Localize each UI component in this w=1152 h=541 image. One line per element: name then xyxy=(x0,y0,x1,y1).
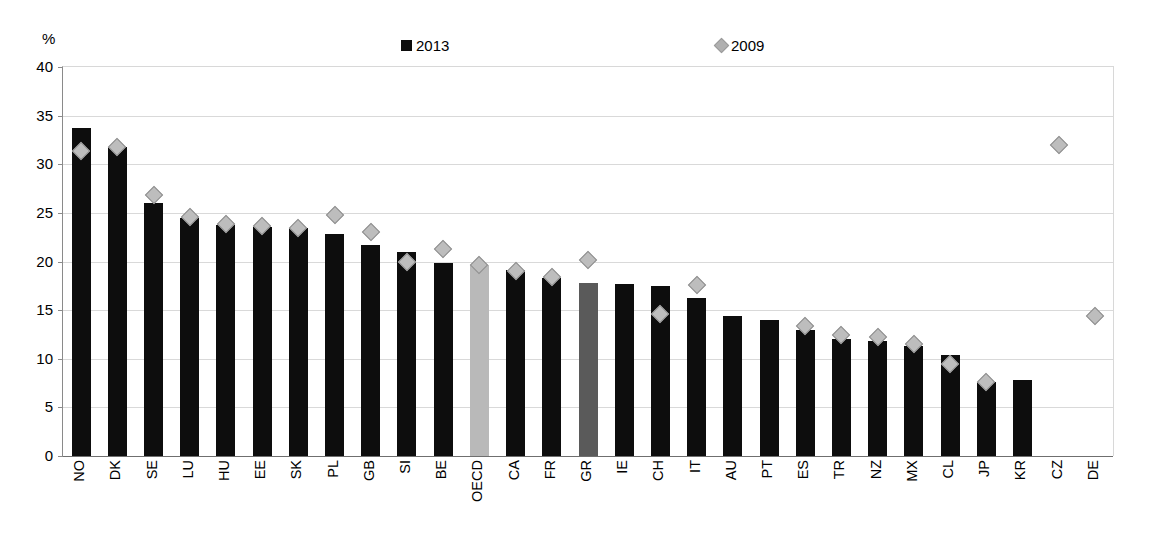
y-axis-tick-label: 5 xyxy=(9,399,53,414)
diamond-marker-gb xyxy=(362,223,380,241)
x-axis-label-mx: MX xyxy=(905,460,920,482)
diamond-marker-pl xyxy=(325,206,343,224)
x-axis-label-pl: PL xyxy=(326,460,341,478)
diamond-marker-gr xyxy=(579,250,597,268)
x-axis-label-sk: SK xyxy=(289,460,304,479)
x-axis-label-cl: CL xyxy=(941,460,956,479)
x-axis-label-ca: CA xyxy=(507,460,522,480)
legend-entry-2009: 2009 xyxy=(716,38,764,53)
bar-ca xyxy=(506,270,525,456)
y-axis-tick-label: 20 xyxy=(9,254,53,269)
bar-group xyxy=(180,67,199,456)
x-axis-label-be: BE xyxy=(434,460,449,479)
legend-entry-2013: 2013 xyxy=(401,38,449,53)
bar-kr xyxy=(1013,380,1032,456)
bar-es xyxy=(796,330,815,456)
bar-group xyxy=(1085,67,1104,456)
bar-se xyxy=(144,203,163,456)
x-axis-label-dk: DK xyxy=(108,460,123,480)
x-axis-label-ie: IE xyxy=(615,460,630,474)
x-axis-label-hu: HU xyxy=(217,460,232,481)
diamond-marker-de xyxy=(1086,307,1104,325)
bar-group xyxy=(434,67,453,456)
bar-group xyxy=(868,67,887,456)
bar-group xyxy=(72,67,91,456)
x-axis-labels: NODKSELUHUEESKPLGBSIBEOECDCAFRGRIECHITAU… xyxy=(62,460,1112,538)
x-axis-label-it: IT xyxy=(688,460,703,473)
x-axis-label-oecd: OECD xyxy=(470,460,485,502)
bar-group xyxy=(651,67,670,456)
chart-root: % 2013 2009 4035302520151050 NODKSELUHUE… xyxy=(0,0,1152,541)
bar-group xyxy=(506,67,525,456)
x-axis-label-se: SE xyxy=(145,460,160,479)
x-axis-label-de: DE xyxy=(1086,460,1101,480)
bar-group xyxy=(579,67,598,456)
y-axis-tick-label: 30 xyxy=(9,156,53,171)
bar-gr xyxy=(579,283,598,456)
x-axis-label-pt: PT xyxy=(760,460,775,479)
bar-jp xyxy=(977,382,996,456)
y-axis-tick-label: 35 xyxy=(9,108,53,123)
legend-label-2013: 2013 xyxy=(416,38,449,53)
x-axis-label-ch: CH xyxy=(651,460,666,481)
x-axis-label-au: AU xyxy=(724,460,739,480)
bar-group xyxy=(904,67,923,456)
plot-area: 4035302520151050 xyxy=(62,66,1114,456)
bar-series-group xyxy=(63,67,1113,456)
bar-group xyxy=(108,67,127,456)
bar-group xyxy=(144,67,163,456)
x-axis-label-gr: GR xyxy=(579,460,594,482)
legend-square-icon xyxy=(401,40,412,51)
x-axis-label-kr: KR xyxy=(1013,460,1028,480)
x-axis-label-ee: EE xyxy=(253,460,268,479)
diamond-marker-be xyxy=(434,240,452,258)
y-axis-tick-label: 10 xyxy=(9,351,53,366)
bar-group xyxy=(796,67,815,456)
bar-ee xyxy=(253,227,272,457)
bar-pl xyxy=(325,234,344,456)
y-axis-tick-label: 0 xyxy=(9,448,53,463)
x-axis-label-no: NO xyxy=(72,460,87,482)
bar-group xyxy=(723,67,742,456)
bar-group xyxy=(615,67,634,456)
diamond-marker-cz xyxy=(1049,136,1067,154)
x-axis-label-cz: CZ xyxy=(1050,460,1065,479)
bar-group xyxy=(832,67,851,456)
bar-si xyxy=(397,252,416,456)
bar-oecd xyxy=(470,265,489,456)
x-axis-label-es: ES xyxy=(796,460,811,479)
bar-group xyxy=(687,67,706,456)
bar-pt xyxy=(760,320,779,456)
y-axis-tick-label: 40 xyxy=(9,59,53,74)
x-axis-label-lu: LU xyxy=(181,460,196,479)
bar-mx xyxy=(904,346,923,456)
bar-sk xyxy=(289,228,308,456)
bar-group xyxy=(253,67,272,456)
x-axis-label-gb: GB xyxy=(362,460,377,481)
bar-dk xyxy=(108,147,127,456)
bar-ie xyxy=(615,284,634,456)
bar-be xyxy=(434,263,453,456)
bar-group xyxy=(361,67,380,456)
bar-group xyxy=(760,67,779,456)
x-axis-label-nz: NZ xyxy=(869,460,884,479)
chart-legend: 2013 2009 xyxy=(0,36,1152,58)
bar-group xyxy=(977,67,996,456)
x-axis-label-si: SI xyxy=(398,460,413,474)
bar-group xyxy=(289,67,308,456)
bar-no xyxy=(72,128,91,456)
y-axis-tick-label: 15 xyxy=(9,302,53,317)
bar-group xyxy=(941,67,960,456)
bar-nz xyxy=(868,341,887,456)
bar-group xyxy=(1013,67,1032,456)
bar-group xyxy=(1049,67,1068,456)
bar-group xyxy=(397,67,416,456)
bar-group xyxy=(542,67,561,456)
x-axis-label-jp: JP xyxy=(977,460,992,477)
x-axis-label-fr: FR xyxy=(543,460,558,479)
bar-group xyxy=(325,67,344,456)
diamond-marker-it xyxy=(687,276,705,294)
diamond-marker-se xyxy=(144,186,162,204)
bar-group xyxy=(216,67,235,456)
bar-gb xyxy=(361,245,380,456)
